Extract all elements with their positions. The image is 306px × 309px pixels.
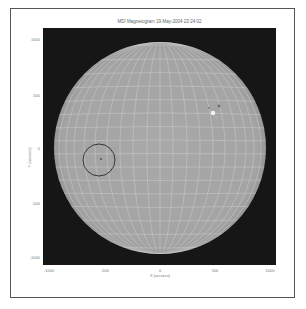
plot-area xyxy=(43,28,276,265)
y-axis-label: Y (arcsecs) xyxy=(27,143,32,173)
chart-title: MDI Magnetogram 19-May-2004 23:24:02 xyxy=(43,19,276,24)
x-tick: 500 xyxy=(203,268,227,273)
x-tick: -1000 xyxy=(37,268,61,273)
y-tick: 500 xyxy=(18,93,40,98)
solar-disk-image xyxy=(43,28,276,265)
y-tick: -500 xyxy=(18,201,40,206)
x-tick: -500 xyxy=(93,268,117,273)
y-tick: 1000 xyxy=(18,37,40,42)
y-tick: -1000 xyxy=(18,255,40,260)
x-tick: 1000 xyxy=(258,268,282,273)
x-axis-label: X (arcsecs) xyxy=(148,273,172,278)
